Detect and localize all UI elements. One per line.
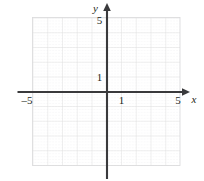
y-axis-arrowhead-icon (103, 3, 111, 11)
coordinate-plane-figure: y 5 1 x 5 1 –5 (0, 0, 204, 181)
x-tick-label-minus-5: –5 (21, 94, 34, 106)
y-tick-label-5: 5 (97, 14, 103, 26)
y-tick-label-1: 1 (97, 71, 103, 83)
x-tick-label-1: 1 (119, 94, 125, 106)
x-axis-arrowhead-icon (182, 88, 190, 96)
coordinate-plane-svg: y 5 1 x 5 1 –5 (0, 0, 204, 181)
x-tick-label-5: 5 (175, 94, 181, 106)
y-axis-label: y (92, 2, 98, 14)
x-axis-label: x (191, 93, 197, 105)
